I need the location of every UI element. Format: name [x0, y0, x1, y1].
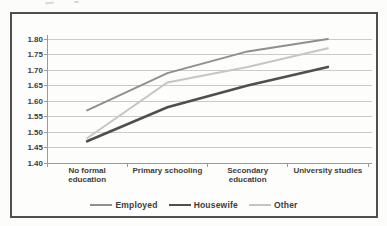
legend-item-other: Other: [249, 200, 298, 210]
legend-label-other: Other: [274, 200, 298, 210]
y-tick-label: 1.75: [27, 50, 43, 59]
chart-legend: EmployedHousewifeOther: [12, 200, 376, 210]
y-tick-label: 1.45: [27, 143, 43, 152]
series-line-housewife: [87, 67, 328, 141]
scan-artifact: [45, 2, 54, 5]
scanned-figure-page: { "page": {"background": "#fcfcfa"}, "ch…: [0, 0, 387, 226]
legend-item-employed: Employed: [90, 200, 157, 210]
legend-line-marker-housewife: [169, 204, 191, 207]
chart-frame: 1.801.751.701.651.601.551.501.451.40 No …: [10, 12, 378, 218]
line-chart: 1.801.751.701.651.601.551.501.451.40: [12, 14, 376, 216]
legend-item-housewife: Housewife: [169, 200, 238, 210]
scan-artifact: [74, 1, 79, 3]
legend-line-marker-other: [249, 204, 271, 206]
y-tick-label: 1.70: [27, 66, 43, 75]
y-tick-label: 1.55: [27, 112, 43, 121]
legend-line-marker-employed: [90, 204, 112, 206]
y-tick-label: 1.80: [27, 35, 43, 44]
y-tick-label: 1.60: [27, 97, 43, 106]
y-tick-label: 1.40: [27, 159, 43, 168]
y-tick-label: 1.50: [27, 128, 43, 137]
legend-label-employed: Employed: [115, 200, 157, 210]
y-tick-label: 1.65: [27, 81, 43, 90]
legend-label-housewife: Housewife: [194, 200, 238, 210]
